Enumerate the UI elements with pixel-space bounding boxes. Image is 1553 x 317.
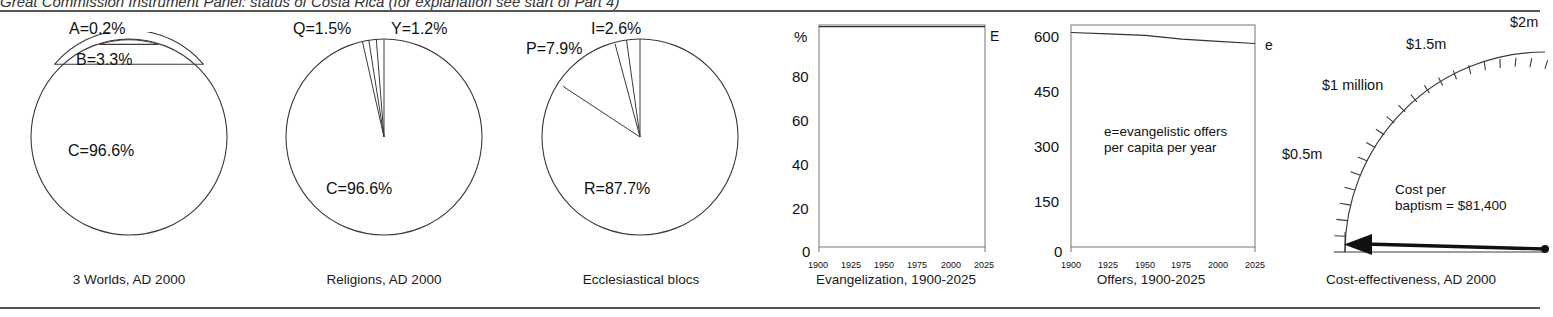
x-tick-2000: 2000 xyxy=(1201,260,1235,270)
panel-caption-offers: Offers, 1900-2025 xyxy=(1020,272,1282,287)
offers-note-line-1: e=evangelistic offers xyxy=(1104,124,1227,140)
y-tick-20: 20 xyxy=(792,200,809,217)
panel-religions: Q=1.5% Y=1.2% C=96.6% Religions, AD 2000 xyxy=(258,14,510,306)
offers-note-line-2: per capita per year xyxy=(1104,140,1217,156)
y-axis-unit-label: % xyxy=(794,28,807,45)
panel-cost-effectiveness: $0.5m $1 million $1.5m $2m Cost per bapt… xyxy=(1282,14,1540,306)
gauge-label-0-5m: $0.5m xyxy=(1282,146,1322,162)
top-divider xyxy=(0,10,1540,12)
pie-slice-label-p: P=7.9% xyxy=(526,40,582,58)
y-tick-0: 0 xyxy=(1054,243,1062,260)
pie-chart-ecclesiastical-blocs xyxy=(540,32,740,237)
cost-note-line-1: Cost per xyxy=(1395,182,1446,198)
x-tick-2025: 2025 xyxy=(1238,260,1272,270)
x-tick-2000: 2000 xyxy=(934,260,968,270)
y-tick-300: 300 xyxy=(1034,138,1059,155)
y-tick-40: 40 xyxy=(792,156,809,173)
document-title: Great Commission Instrument Panel: statu… xyxy=(0,0,1540,10)
x-tick-1925: 1925 xyxy=(834,260,868,270)
panel-evangelization: % 80 60 40 20 0 E 1900 1925 1950 1975 20… xyxy=(772,14,1020,306)
x-tick-1975: 1975 xyxy=(1164,260,1198,270)
x-tick-1925: 1925 xyxy=(1091,260,1125,270)
pie-slice-label-b: B=3.3% xyxy=(76,51,132,69)
pie-slice-label-r: R=87.7% xyxy=(584,180,650,198)
y-tick-450: 450 xyxy=(1034,83,1059,100)
gauge-label-1-5m: $1.5m xyxy=(1406,36,1446,52)
panel-three-worlds: A=0.2% B=3.3% C=96.6% 3 Worlds, AD 2000 xyxy=(0,14,258,306)
x-tick-1950: 1950 xyxy=(1128,260,1162,270)
y-tick-150: 150 xyxy=(1034,193,1059,210)
x-tick-1950: 1950 xyxy=(867,260,901,270)
panel-ecclesiastical-blocs: I=2.6% P=7.9% R=87.7% Ecclesiastical blo… xyxy=(510,14,772,306)
gauge-label-2m: $2m xyxy=(1510,14,1538,30)
pie-slice-label-a: A=0.2% xyxy=(69,20,125,38)
panel-caption-evangelization: Evangelization, 1900-2025 xyxy=(772,272,1020,287)
x-tick-1900: 1900 xyxy=(1054,260,1088,270)
y-tick-0: 0 xyxy=(802,243,810,260)
pie-slice-label-y: Y=1.2% xyxy=(391,20,447,38)
line-chart-evangelization xyxy=(818,24,996,256)
pie-chart-religions xyxy=(284,32,484,237)
bottom-divider xyxy=(0,307,1540,309)
pie-slice-label-c: C=96.6% xyxy=(326,180,392,198)
panel-caption-religions: Religions, AD 2000 xyxy=(258,272,510,287)
series-marker-offers: e xyxy=(1265,37,1273,53)
y-tick-60: 60 xyxy=(792,112,809,129)
x-tick-2025: 2025 xyxy=(967,260,1001,270)
gauge-chart-cost-effectiveness xyxy=(1330,20,1553,260)
cost-note-line-2: baptism = $81,400 xyxy=(1395,198,1506,214)
panel-caption-cost-effectiveness: Cost-effectiveness, AD 2000 xyxy=(1282,272,1540,287)
series-marker-evangelization: E xyxy=(990,28,999,44)
x-tick-1900: 1900 xyxy=(801,260,835,270)
x-tick-1975: 1975 xyxy=(900,260,934,270)
panel-offers: 600 450 300 150 0 e e=evangelistic offer… xyxy=(1020,14,1282,306)
panel-caption-three-worlds: 3 Worlds, AD 2000 xyxy=(0,272,258,287)
pie-slice-label-c: C=96.6% xyxy=(68,142,134,160)
y-tick-80: 80 xyxy=(792,68,809,85)
pie-slice-label-i: I=2.6% xyxy=(591,20,641,38)
gauge-label-1-million: $1 million xyxy=(1322,77,1383,93)
y-tick-600: 600 xyxy=(1034,28,1059,45)
panel-caption-ecclesiastical-blocs: Ecclesiastical blocs xyxy=(510,272,772,287)
pie-slice-label-q: Q=1.5% xyxy=(293,20,351,38)
